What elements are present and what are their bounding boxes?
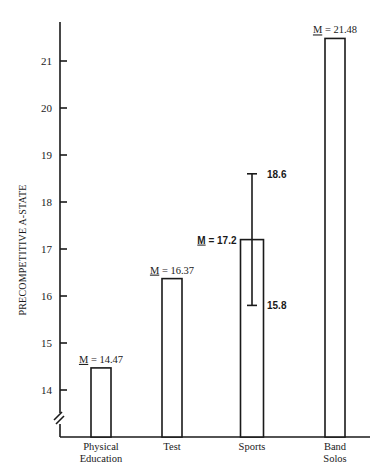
bar-value: = 21.48 bbox=[322, 24, 357, 35]
bar-chart: 1415161718192021 PRECOMPETITIVE A-STATE … bbox=[0, 0, 385, 475]
x-category-label-line: Test bbox=[163, 441, 180, 452]
bar-value-label: M = 21.48 bbox=[313, 24, 357, 35]
y-axis-label: PRECOMPETITIVE A-STATE bbox=[17, 184, 28, 315]
x-category-label: PhysicalEducation bbox=[80, 441, 123, 464]
bar-value: = 17.2 bbox=[206, 235, 237, 246]
x-category-label: Test bbox=[163, 441, 180, 452]
bar-value: = 14.47 bbox=[88, 354, 123, 365]
bar-physical-education bbox=[91, 368, 111, 437]
x-category-label: Sports bbox=[239, 441, 266, 452]
mean-symbol: M bbox=[197, 235, 205, 246]
error-bar-upper-label: 18.6 bbox=[267, 169, 287, 180]
x-category-label-line: Sports bbox=[239, 441, 266, 452]
y-tick-label: 19 bbox=[41, 149, 53, 161]
y-tick-label: 20 bbox=[41, 102, 53, 114]
bar-band-solos bbox=[325, 38, 345, 437]
x-category-label-line: Physical bbox=[83, 441, 119, 452]
x-category-label-line: Band bbox=[324, 441, 347, 452]
y-tick-label: 17 bbox=[41, 243, 53, 255]
x-category-label-line: Solos bbox=[323, 453, 346, 464]
y-tick-label: 15 bbox=[41, 337, 53, 349]
y-tick-label: 18 bbox=[41, 196, 53, 208]
bar-value: = 16.37 bbox=[159, 265, 194, 276]
y-axis: 1415161718192021 bbox=[41, 22, 67, 437]
error-bar-lower-label: 15.8 bbox=[267, 300, 287, 311]
x-category-label-line: Education bbox=[80, 453, 123, 464]
bar-value-label: M = 16.37 bbox=[150, 265, 194, 276]
bar-value-label: M = 14.47 bbox=[79, 354, 123, 365]
bar-test bbox=[162, 279, 182, 437]
y-axis-title: PRECOMPETITIVE A-STATE bbox=[17, 184, 28, 315]
y-tick-label: 16 bbox=[41, 290, 53, 302]
x-category-label: BandSolos bbox=[323, 441, 346, 464]
category-labels: PhysicalEducationTestSportsBandSolos bbox=[80, 441, 347, 464]
y-tick-label: 21 bbox=[41, 55, 52, 67]
bar-value-label: M = 17.2 bbox=[197, 235, 237, 246]
y-tick-label: 14 bbox=[41, 384, 53, 396]
bars: M = 14.47M = 16.37M = 17.2M = 21.48 bbox=[79, 24, 357, 437]
